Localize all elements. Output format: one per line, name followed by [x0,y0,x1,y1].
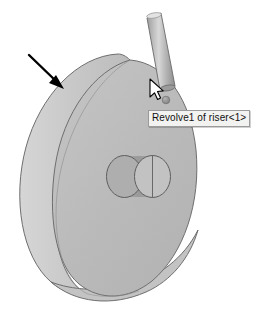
feature-name-tooltip-label: Revolve1 of riser<1> [152,112,246,123]
pointer-arrow-annotation [29,55,64,89]
hub-assembly[interactable] [107,156,171,198]
screenshot-canvas: Revolve1 of riser<1> [0,0,258,320]
feature-name-tooltip: Revolve1 of riser<1> [148,110,250,127]
selection-point-marker[interactable] [162,96,170,104]
cad-scene-svg[interactable] [0,0,258,320]
